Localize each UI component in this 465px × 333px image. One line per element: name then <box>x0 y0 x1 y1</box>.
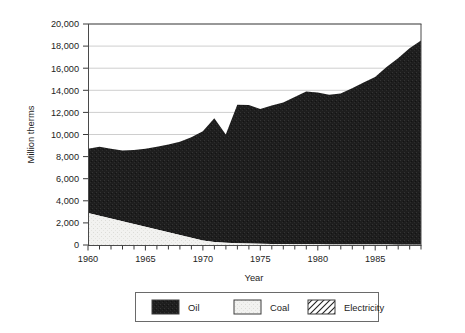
x-tick-label: 1960 <box>78 254 98 264</box>
x-tick-label: 1975 <box>250 254 270 264</box>
chart-figure: 20,000 18,000 16,000 14,000 12,000 10,00… <box>0 0 465 333</box>
y-tick-label: 0 <box>74 240 79 250</box>
y-tick-label: 12,000 <box>51 108 79 118</box>
legend-swatch-electricity <box>308 300 335 314</box>
stacked-area-chart: 20,000 18,000 16,000 14,000 12,000 10,00… <box>0 0 465 333</box>
y-tick-label: 10,000 <box>51 130 79 140</box>
legend-swatch-coal <box>234 300 261 314</box>
y-tick-label: 4,000 <box>56 196 79 206</box>
y-tick-label: 8,000 <box>56 152 79 162</box>
x-tick-label: 1970 <box>193 254 213 264</box>
legend-label-coal: Coal <box>270 302 289 313</box>
legend-item-electricity[interactable]: Electricity <box>308 300 384 314</box>
x-tick-label: 1965 <box>135 254 155 264</box>
legend-label-oil: Oil <box>188 302 199 313</box>
x-tick-label: 1980 <box>308 254 328 264</box>
legend-label-electricity: Electricity <box>344 302 384 313</box>
y-axis-title: Million therms <box>25 105 36 163</box>
y-tick-label: 16,000 <box>51 64 79 74</box>
y-tick-label: 6,000 <box>56 174 79 184</box>
y-tick-label: 20,000 <box>51 19 79 29</box>
y-tick-label: 18,000 <box>51 41 79 51</box>
x-tick-label: 1985 <box>365 254 385 264</box>
x-axis-title: Year <box>245 272 264 283</box>
y-tick-label: 14,000 <box>51 86 79 96</box>
legend-swatch-oil <box>152 300 179 314</box>
chart-legend: Oil Coal Electricity <box>136 293 385 322</box>
y-tick-label: 2,000 <box>56 218 79 228</box>
legend-item-oil[interactable]: Oil <box>152 300 199 314</box>
